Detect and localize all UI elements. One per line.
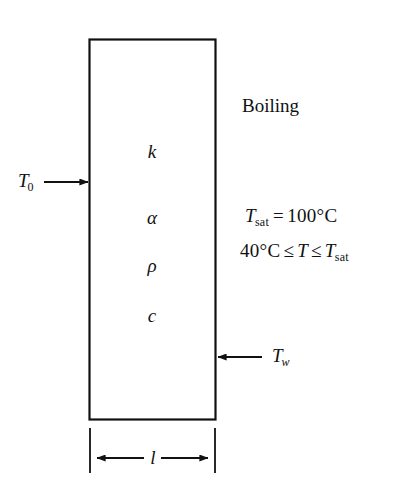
figure-root: k α ρ c Boiling T0 Tw Tsat=100°C 40°C≤T≤… [0, 0, 404, 488]
left-boundary-subscript: 0 [28, 180, 34, 194]
equation-temperature-range: 40°C≤T≤Tsat [240, 241, 350, 260]
equation-saturation-temperature: Tsat=100°C [245, 206, 337, 225]
right-boundary-subscript: w [282, 355, 290, 369]
dimension-label-thickness: l [141, 448, 165, 467]
property-symbol-thermal-diffusivity: α [132, 208, 172, 227]
property-symbol-thermal-conductivity: k [132, 142, 172, 161]
eq1-operator: = [270, 205, 287, 226]
eq1-rhs: 100°C [287, 205, 337, 226]
right-boundary-temperature-label: Tw [272, 346, 291, 365]
eq2-lower-bound: 40°C [240, 240, 280, 261]
eq1-lhs-subscript: sat [255, 215, 269, 229]
eq2-upper-subscript: sat [335, 250, 349, 264]
property-symbol-specific-heat: c [132, 306, 172, 325]
right-boundary-symbol: T [272, 345, 283, 366]
eq2-operator-left: ≤ [280, 240, 297, 261]
slab-rectangle [90, 40, 216, 420]
eq2-operator-right: ≤ [308, 240, 325, 261]
left-boundary-temperature-label: T0 [18, 171, 35, 190]
property-symbol-density: ρ [132, 256, 172, 275]
boiling-label: Boiling [242, 96, 299, 115]
eq2-variable: T [297, 240, 308, 261]
left-boundary-symbol: T [18, 170, 29, 191]
